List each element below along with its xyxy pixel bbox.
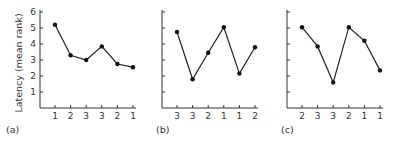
series-line xyxy=(177,27,255,79)
y-tick-label: 6 xyxy=(30,7,36,17)
x-tick-label: 2 xyxy=(68,111,74,121)
data-point xyxy=(175,30,179,34)
data-point xyxy=(347,25,351,29)
data-point xyxy=(115,62,119,66)
x-tick-label: 1 xyxy=(130,111,136,121)
y-tick-label: 4 xyxy=(30,39,36,49)
y-tick-label: 5 xyxy=(30,23,36,33)
y-axis-label: Latency (mean rank) xyxy=(13,13,24,112)
data-point xyxy=(378,68,382,72)
panel-label: (b) xyxy=(156,124,169,135)
data-point xyxy=(362,39,366,43)
panel-label: (a) xyxy=(6,124,19,135)
data-point xyxy=(331,80,335,84)
y-tick-label: 1 xyxy=(30,87,36,97)
y-tick-label: 2 xyxy=(30,71,36,81)
data-point xyxy=(131,65,135,69)
x-tick-label: 2 xyxy=(299,111,305,121)
y-tick-label: 3 xyxy=(30,55,36,65)
data-point xyxy=(190,77,194,81)
x-tick-label: 1 xyxy=(237,111,243,121)
x-tick-label: 3 xyxy=(99,111,105,121)
series-line xyxy=(302,27,380,82)
x-tick-label: 3 xyxy=(330,111,336,121)
data-point xyxy=(206,51,210,55)
data-point xyxy=(315,44,319,48)
data-point xyxy=(53,23,57,27)
data-point xyxy=(68,53,72,57)
x-tick-label: 3 xyxy=(83,111,89,121)
data-point xyxy=(222,25,226,29)
data-point xyxy=(100,44,104,48)
data-point xyxy=(253,45,257,49)
x-tick-label: 3 xyxy=(315,111,321,121)
panel-a: 123456123321(a) xyxy=(6,7,136,135)
x-tick-label: 1 xyxy=(377,111,383,121)
data-point xyxy=(300,25,304,29)
latency-figure: Latency (mean rank) 123456123321(a)33211… xyxy=(0,0,401,145)
panel-c: 233211(c) xyxy=(281,10,383,135)
x-tick-label: 3 xyxy=(174,111,180,121)
panel-b: 332112(b) xyxy=(156,10,258,135)
x-tick-label: 3 xyxy=(190,111,196,121)
panel-label: (c) xyxy=(281,124,294,135)
x-tick-label: 1 xyxy=(362,111,368,121)
x-tick-label: 2 xyxy=(252,111,258,121)
x-tick-label: 2 xyxy=(346,111,352,121)
x-tick-label: 1 xyxy=(221,111,227,121)
data-point xyxy=(237,71,241,75)
x-tick-label: 2 xyxy=(115,111,121,121)
x-tick-label: 1 xyxy=(52,111,58,121)
series-line xyxy=(55,25,133,67)
x-tick-label: 2 xyxy=(205,111,211,121)
data-point xyxy=(84,58,88,62)
